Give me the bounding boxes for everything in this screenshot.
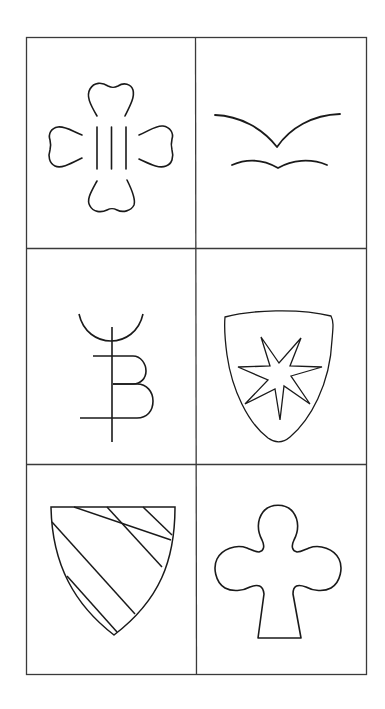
crescent-staff-b-icon [79, 314, 153, 442]
club-trefoil-icon [215, 505, 341, 638]
shield-star-icon [225, 311, 333, 442]
quatrefoil-cross-icon [49, 83, 173, 211]
striped-shield-icon [51, 507, 175, 635]
gull-birds-icon [215, 114, 340, 168]
symbol-grid-figure: Cross of four heart-shaped lobes with th… [0, 0, 385, 709]
grid-column-divider [196, 38, 197, 675]
